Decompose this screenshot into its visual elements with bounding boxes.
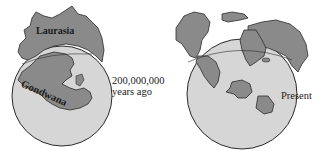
north-america-landmass — [176, 12, 210, 58]
past-caption-line2: years ago — [112, 86, 165, 97]
past-caption-line1: 200,000,000 — [112, 75, 165, 86]
continental-drift-figure: Laurasia Gondwana 200,000,000 years ago … — [0, 0, 334, 151]
madagascar-landmass — [262, 58, 270, 62]
past-caption: 200,000,000 years ago — [112, 75, 165, 97]
globes-illustration — [0, 0, 334, 151]
present-globe — [176, 12, 308, 149]
greenland-landmass — [222, 12, 248, 22]
laurasia-label: Laurasia — [36, 25, 74, 36]
present-caption: Present — [281, 90, 312, 101]
